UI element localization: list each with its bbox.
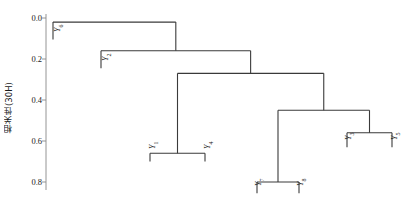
leaf-label-y3: Y3 bbox=[344, 133, 355, 140]
leaf-label-y5: Y5 bbox=[390, 133, 401, 140]
leaf-label-y7: Y7 bbox=[254, 179, 265, 186]
leaf-label-y2: Y2 bbox=[101, 54, 112, 61]
leaf-label-y4: Y4 bbox=[203, 142, 214, 149]
leaf-label-y6: Y6 bbox=[53, 25, 64, 32]
dendrogram-chart: 相关性(30H) 0.0 0.2 0.4 0.6 0.8 Y6 Y2 Y1 Y4… bbox=[0, 0, 405, 214]
leaf-label-y8: Y8 bbox=[296, 179, 307, 186]
y-axis bbox=[42, 14, 46, 190]
leaf-label-y1: Y1 bbox=[148, 142, 159, 149]
dendrogram-branches bbox=[53, 22, 392, 193]
dendrogram-plot bbox=[0, 0, 405, 214]
